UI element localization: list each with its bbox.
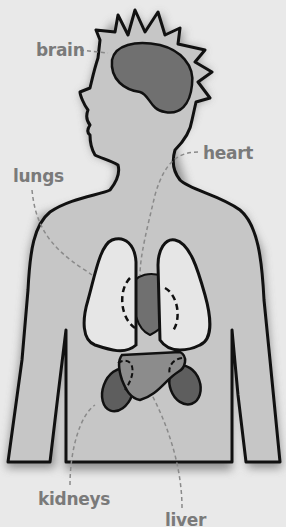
label-kidneys: kidneys [38, 489, 110, 509]
label-brain: brain [36, 40, 84, 60]
label-lungs: lungs [13, 166, 64, 186]
label-heart: heart [203, 143, 253, 163]
body-diagram [0, 0, 286, 527]
label-liver: liver [165, 510, 206, 527]
